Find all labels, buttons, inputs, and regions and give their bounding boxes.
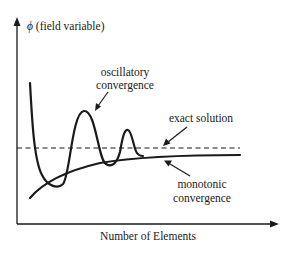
phi-symbol: ϕ [27, 20, 33, 32]
oscillatory-convergence-curve [30, 83, 143, 187]
monotonic-pointer-arrow-icon [164, 161, 172, 167]
oscillatory-pointer-arrow-icon [95, 103, 101, 111]
convergence-diagram: ϕ (field variable) oscillatory convergen… [0, 0, 293, 255]
y-axis-arrow-icon [14, 17, 21, 26]
monotonic-pointer-line [170, 164, 190, 176]
oscillatory-pointer-line [98, 92, 108, 106]
x-axis-arrow-icon [270, 221, 279, 228]
diagram-canvas [0, 0, 293, 255]
y-axis-label-text: (field variable) [36, 20, 105, 32]
monotonic-label-line1: monotonic [177, 178, 226, 190]
x-axis-label: Number of Elements [100, 230, 196, 242]
oscillatory-label-line1: oscillatory [101, 66, 150, 78]
exact-solution-pointer-arrow-icon [163, 139, 171, 147]
exact-solution-label: exact solution [169, 112, 233, 124]
monotonic-label-line2: convergence [173, 192, 231, 204]
oscillatory-label-line2: convergence [96, 79, 154, 91]
exact-solution-pointer-line [168, 127, 187, 142]
y-axis-label: ϕ (field variable) [27, 20, 104, 32]
